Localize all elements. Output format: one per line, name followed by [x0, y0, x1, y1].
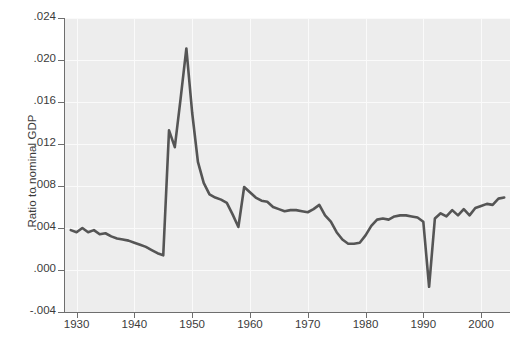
- y-axis-tick-labels: -.004.000.004.008.012.016.020.024: [10, 0, 56, 347]
- y-tick-label: .000: [10, 262, 56, 274]
- y-tick-label: .004: [10, 220, 56, 232]
- x-axis-line: [64, 312, 510, 313]
- x-tick-label: 1930: [47, 318, 107, 330]
- y-tick-label: -.004: [10, 304, 56, 316]
- x-tick-label: 1950: [162, 318, 222, 330]
- x-tick-label: 1980: [336, 318, 396, 330]
- data-line-series: [65, 18, 510, 312]
- x-tick-label: 2000: [451, 318, 510, 330]
- y-tick-label: .016: [10, 94, 56, 106]
- y-tick-label: .024: [10, 10, 56, 22]
- x-tick-label: 1940: [104, 318, 164, 330]
- y-tick-label: .008: [10, 178, 56, 190]
- x-tick-label: 1960: [220, 318, 280, 330]
- y-tick-label: .020: [10, 52, 56, 64]
- plot-area: [65, 18, 510, 312]
- chart-figure: Ratio to nominal GDP -.004.000.004.008.0…: [0, 0, 510, 347]
- x-tick-label: 1990: [393, 318, 453, 330]
- x-tick-label: 1970: [278, 318, 338, 330]
- y-tick-label: .012: [10, 136, 56, 148]
